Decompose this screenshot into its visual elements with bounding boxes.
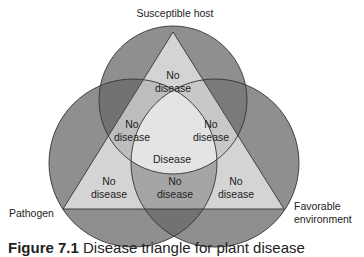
caption-figure-number: Figure 7.1 (8, 239, 79, 256)
region-disease: Disease (153, 153, 191, 166)
region-pathogen-environment: No disease (157, 175, 193, 200)
region-text-line: No (193, 118, 229, 131)
label-favorable-environment: Favorable environment (294, 200, 352, 226)
caption-text: Disease triangle for plant disease (83, 239, 305, 256)
label-pathogen: Pathogen (9, 207, 54, 220)
label-environment-line2: environment (294, 213, 352, 226)
region-text-line: No (114, 118, 150, 131)
label-environment-line1: Favorable (294, 200, 352, 213)
region-text-line: disease (193, 130, 229, 143)
figure-caption: Figure 7.1 Disease triangle for plant di… (8, 239, 305, 257)
region-host-environment: No disease (193, 118, 229, 143)
region-text-line: Disease (153, 153, 191, 166)
label-susceptible-host: Susceptible host (135, 7, 215, 20)
region-text-line: disease (155, 81, 191, 94)
region-text-line: No (218, 175, 254, 188)
region-pathogen-only: No disease (91, 175, 127, 200)
region-text-line: disease (114, 130, 150, 143)
region-text-line: No (155, 69, 191, 82)
region-text-line: disease (91, 187, 127, 200)
region-text-line: No (91, 175, 127, 188)
region-host-only: No disease (155, 69, 191, 94)
region-host-pathogen: No disease (114, 118, 150, 143)
region-text-line: disease (157, 187, 193, 200)
region-environment-only: No disease (218, 175, 254, 200)
region-text-line: disease (218, 187, 254, 200)
region-text-line: No (157, 175, 193, 188)
